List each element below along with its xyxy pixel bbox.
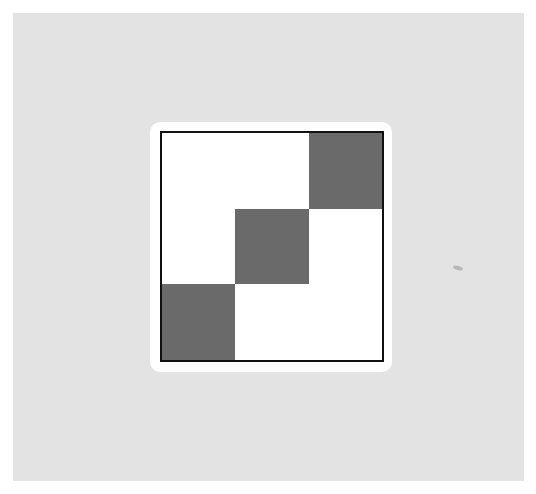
empty-cell bbox=[309, 209, 382, 285]
empty-cell bbox=[235, 284, 308, 360]
pattern-grid bbox=[160, 131, 384, 362]
empty-cell bbox=[162, 209, 235, 285]
filled-cell bbox=[162, 284, 235, 360]
filled-cell bbox=[309, 133, 382, 209]
filled-cell bbox=[235, 209, 308, 285]
empty-cell bbox=[235, 133, 308, 209]
empty-cell bbox=[309, 284, 382, 360]
empty-cell bbox=[162, 133, 235, 209]
